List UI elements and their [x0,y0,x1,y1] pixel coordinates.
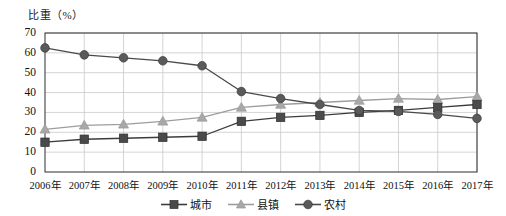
series-line-0 [45,104,477,142]
marker-square [159,133,167,141]
square-marker-icon [161,199,187,210]
x-tick-label: 2012年 [265,177,296,192]
y-tick-label: 60 [10,47,36,59]
x-tick-label: 2017年 [462,177,493,192]
legend-label: 城市 [190,196,212,212]
marker-square [316,111,324,119]
marker-square [276,113,284,121]
x-tick-label: 2014年 [344,177,375,192]
marker-circle [394,107,403,116]
marker-square [119,134,127,142]
marker-square [80,135,88,143]
line-chart-figure: 比重（%） 706050403020100 2006年2007年2008年200… [0,0,506,216]
plot-frame [45,33,477,172]
marker-square [473,100,481,108]
y-tick-label: 50 [10,67,36,79]
legend-item[interactable]: 农村 [295,196,346,212]
y-tick-label: 40 [10,87,36,99]
legend-label: 农村 [324,196,346,212]
marker-circle [276,94,285,103]
marker-circle [355,106,364,115]
y-tick-label: 10 [10,146,36,158]
x-tick-label: 2006年 [30,177,61,192]
legend-item[interactable]: 城市 [161,196,212,212]
marker-circle [80,51,89,60]
legend-item[interactable]: 县镇 [228,196,279,212]
y-tick-label: 0 [10,166,36,178]
y-tick-label: 20 [10,126,36,138]
x-tick-label: 2008年 [108,177,139,192]
triangle-marker-icon [228,199,254,210]
marker-circle [237,87,246,96]
circle-marker-icon [295,199,321,210]
marker-circle [198,61,207,70]
marker-square [198,132,206,140]
marker-square [41,138,49,146]
x-tick-label: 2013年 [304,177,335,192]
y-tick-label: 30 [10,106,36,118]
marker-circle [473,114,482,123]
marker-circle [159,57,168,66]
series-line-2 [45,48,477,118]
marker-circle [41,44,50,53]
marker-circle [119,54,128,63]
marker-circle [433,110,442,119]
marker-triangle [393,94,403,103]
x-tick-label: 2007年 [69,177,100,192]
x-tick-label: 2009年 [147,177,178,192]
chart-legend: 城市县镇农村 [0,196,506,212]
x-tick-label: 2011年 [226,177,257,192]
y-tick-label: 70 [10,27,36,39]
legend-label: 县镇 [257,196,279,212]
x-tick-label: 2015年 [383,177,414,192]
x-tick-label: 2010年 [187,177,218,192]
marker-square [237,117,245,125]
marker-circle [316,100,325,109]
x-tick-label: 2016年 [422,177,453,192]
